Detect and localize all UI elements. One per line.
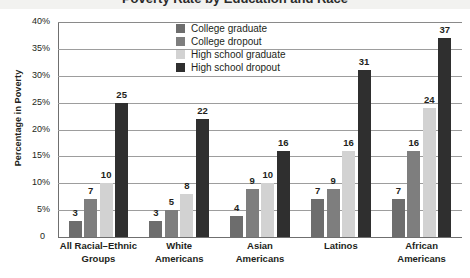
bar: 31 <box>358 70 371 237</box>
bar: 24 <box>423 108 436 237</box>
bar-value-label: 16 <box>343 137 354 148</box>
legend-label: High school graduate <box>191 49 286 60</box>
legend-swatch-icon <box>176 24 185 33</box>
legend-item[interactable]: College dropout <box>176 35 356 48</box>
y-tick-label: 30% <box>0 70 50 80</box>
bar-chart: Percentage in Poverty 5%10%15%20%25%30%3… <box>0 9 470 278</box>
x-category-label: Latinos <box>300 240 381 253</box>
bar: 7 <box>392 199 405 237</box>
bar: 3 <box>149 221 162 237</box>
bar: 10 <box>261 183 274 237</box>
bar-value-label: 24 <box>424 94 435 105</box>
x-category-label: Asian Americans <box>220 240 301 265</box>
bar: 9 <box>327 189 340 237</box>
bar: 7 <box>84 199 97 237</box>
x-category-label: All Racial–Ethnic Groups <box>58 240 139 265</box>
legend-item[interactable]: High school graduate <box>176 48 356 61</box>
bar-value-label: 7 <box>396 185 401 196</box>
bar: 9 <box>246 189 259 237</box>
y-tick-label: 10% <box>0 177 50 187</box>
chart-legend: College graduateCollege dropoutHigh scho… <box>176 22 356 74</box>
bar: 16 <box>407 151 420 237</box>
y-axis-zero-label: 0 <box>40 231 45 241</box>
bar: 10 <box>100 183 113 237</box>
x-axis-category-labels: All Racial–Ethnic GroupsWhite AmericansA… <box>58 240 462 276</box>
bar-value-label: 4 <box>234 202 239 213</box>
bar: 3 <box>69 221 82 237</box>
y-tick-label: 35% <box>0 43 50 53</box>
bar-value-label: 7 <box>315 185 320 196</box>
bar: 8 <box>180 194 193 237</box>
bar: 16 <box>342 151 355 237</box>
bar: 16 <box>277 151 290 237</box>
x-category-label: African Americans <box>381 240 462 265</box>
bar-value-label: 16 <box>409 137 420 148</box>
bar: 7 <box>311 199 324 237</box>
legend-label: College graduate <box>191 23 267 34</box>
bar-group: 371025 <box>58 22 139 237</box>
bar-value-label: 31 <box>359 56 370 67</box>
y-tick-label: 20% <box>0 124 50 134</box>
legend-label: College dropout <box>191 36 262 47</box>
bar-value-label: 3 <box>153 207 158 218</box>
y-tick-label: 5% <box>0 204 50 214</box>
bar-value-label: 22 <box>197 105 208 116</box>
bar: 37 <box>438 38 451 237</box>
legend-swatch-icon <box>176 50 185 59</box>
clipped-title-strip: Poverty Rate by Education and Race <box>0 0 470 9</box>
bar-value-label: 16 <box>278 137 289 148</box>
bar-value-label: 10 <box>101 169 112 180</box>
y-tick-label: 15% <box>0 150 50 160</box>
bar-value-label: 8 <box>184 180 189 191</box>
bar-value-label: 5 <box>169 196 174 207</box>
y-axis-tick-labels: 5%10%15%20%25%30%35%40% <box>0 22 54 238</box>
chart-title: Poverty Rate by Education and Race <box>0 0 470 6</box>
bar: 22 <box>196 119 209 237</box>
bar-value-label: 3 <box>72 207 77 218</box>
bar-value-label: 9 <box>330 175 335 186</box>
bar-value-label: 9 <box>250 175 255 186</box>
y-tick-label: 25% <box>0 97 50 107</box>
legend-swatch-icon <box>176 63 185 72</box>
y-tick-label: 40% <box>0 16 50 26</box>
bar-value-label: 25 <box>116 89 127 100</box>
bar-value-label: 37 <box>440 24 451 35</box>
bar: 25 <box>115 103 128 237</box>
bar-value-label: 10 <box>262 169 273 180</box>
x-axis-line <box>58 237 462 238</box>
x-category-label: White Americans <box>139 240 220 265</box>
legend-item[interactable]: High school dropout <box>176 61 356 74</box>
bar-value-label: 7 <box>88 185 93 196</box>
legend-label: High school dropout <box>191 62 280 73</box>
legend-item[interactable]: College graduate <box>176 22 356 35</box>
bar-group: 7162437 <box>381 22 462 237</box>
bar: 5 <box>165 210 178 237</box>
legend-swatch-icon <box>176 37 185 46</box>
bar: 4 <box>230 216 243 238</box>
